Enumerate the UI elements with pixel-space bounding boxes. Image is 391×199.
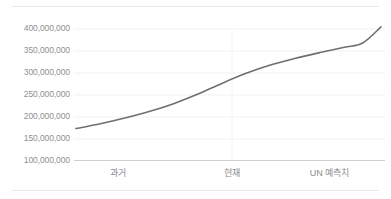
x-tick-label-past: 과거 <box>88 166 148 180</box>
top-divider <box>12 6 379 7</box>
plot-area <box>0 14 391 166</box>
x-axis: 과거 현재 UN 예측치 <box>0 166 391 186</box>
line-chart-svg <box>0 14 391 166</box>
horizontal-gridlines <box>74 29 385 139</box>
chart-card: 400,000,000 350,000,000 300,000,000 250,… <box>0 0 391 199</box>
x-tick-label-forecast: UN 예측치 <box>292 166 367 180</box>
population-line <box>76 27 381 129</box>
bottom-divider <box>12 190 379 191</box>
x-tick-label-present: 현재 <box>202 166 262 180</box>
